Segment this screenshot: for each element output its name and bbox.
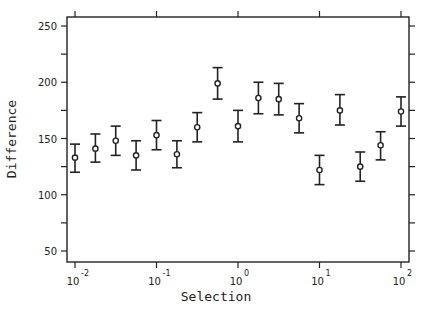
data-point <box>335 95 345 125</box>
data-point <box>233 110 243 142</box>
y-tick-label: 50 <box>44 246 57 257</box>
y-tick-label: 150 <box>38 134 57 145</box>
data-point <box>192 113 202 142</box>
x-axis-label: Selection <box>181 289 251 304</box>
circle-marker-icon <box>134 153 139 158</box>
data-point <box>294 104 304 133</box>
circle-marker-icon <box>93 146 98 151</box>
data-point <box>70 144 80 172</box>
x-tick-label: 10 <box>311 276 324 287</box>
circle-marker-icon <box>235 124 240 129</box>
data-point <box>172 141 182 168</box>
x-tick-label: 10 <box>230 276 243 287</box>
x-tick-label: 10 <box>393 276 406 287</box>
y-axis-label: Difference <box>4 100 19 178</box>
circle-marker-icon <box>215 81 220 86</box>
data-point <box>355 152 365 181</box>
circle-marker-icon <box>256 95 261 100</box>
y-tick-label: 250 <box>38 21 57 32</box>
data-series <box>70 68 406 185</box>
data-point <box>131 141 141 170</box>
x-tick-exponent: -2 <box>81 269 89 278</box>
x-tick-label: 10 <box>148 276 161 287</box>
circle-marker-icon <box>317 167 322 172</box>
chart: 50100150200250 10-210-1100101102 Selecti… <box>0 0 423 309</box>
circle-marker-icon <box>154 133 159 138</box>
y-axis: 50100150200250 <box>38 21 415 257</box>
x-tick-exponent: 0 <box>244 269 249 278</box>
data-point <box>90 134 100 162</box>
data-point <box>376 132 386 160</box>
data-point <box>274 83 284 115</box>
circle-marker-icon <box>174 152 179 157</box>
circle-marker-icon <box>378 143 383 148</box>
data-point <box>111 126 121 155</box>
circle-marker-icon <box>195 125 200 130</box>
circle-marker-icon <box>113 138 118 143</box>
x-tick-exponent: -1 <box>163 269 171 278</box>
data-point <box>152 121 162 150</box>
data-point <box>213 68 223 100</box>
circle-marker-icon <box>337 108 342 113</box>
circle-marker-icon <box>398 109 403 114</box>
y-tick-label: 100 <box>38 190 57 201</box>
data-point <box>315 155 325 184</box>
data-point <box>253 82 263 114</box>
x-tick-exponent: 2 <box>407 269 412 278</box>
data-point <box>396 97 406 126</box>
x-axis: 10-210-1100101102 <box>67 11 412 287</box>
circle-marker-icon <box>72 155 77 160</box>
x-tick-label: 10 <box>67 276 80 287</box>
x-tick-exponent: 1 <box>326 269 331 278</box>
circle-marker-icon <box>297 116 302 121</box>
circle-marker-icon <box>358 164 363 169</box>
circle-marker-icon <box>276 97 281 102</box>
y-tick-label: 200 <box>38 77 57 88</box>
